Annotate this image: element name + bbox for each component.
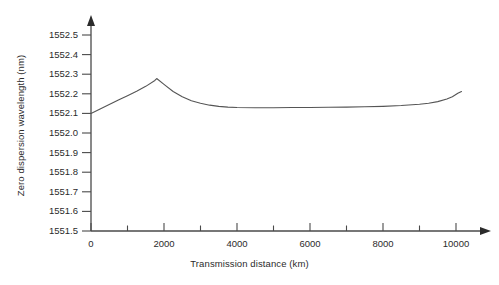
x-tick-label: 6000 [280, 238, 340, 249]
y-tick-label: 1551.8 [32, 166, 78, 177]
x-tick-label: 0 [61, 238, 121, 249]
y-tick-label: 1551.6 [32, 205, 78, 216]
x-tick-label: 4000 [207, 238, 267, 249]
y-tick-label: 1552.3 [32, 68, 78, 79]
y-tick-label: 1552.2 [32, 88, 78, 99]
y-tick-label: 1552.0 [32, 127, 78, 138]
y-tick-label: 1551.9 [32, 147, 78, 158]
chart-container: Zero dispersion wavelength (nm) Transmis… [0, 0, 499, 285]
y-tick-label: 1552.4 [32, 49, 78, 60]
x-axis-arrow-icon [480, 227, 491, 235]
y-tick-label: 1551.5 [32, 225, 78, 236]
x-axis-title: Transmission distance (km) [0, 258, 499, 269]
y-tick-label: 1552.5 [32, 29, 78, 40]
data-series-line [91, 79, 461, 114]
x-tick-label: 8000 [353, 238, 413, 249]
x-tick-label: 2000 [134, 238, 194, 249]
axes-group [87, 15, 491, 235]
y-axis-arrow-icon [87, 15, 95, 26]
y-tick-label: 1551.7 [32, 186, 78, 197]
y-tick-label: 1552.1 [32, 107, 78, 118]
y-axis-title: Zero dispersion wavelength (nm) [15, 26, 26, 226]
x-tick-label: 10000 [426, 238, 486, 249]
y-axis-ticks [82, 35, 91, 231]
x-axis-ticks [91, 223, 456, 231]
